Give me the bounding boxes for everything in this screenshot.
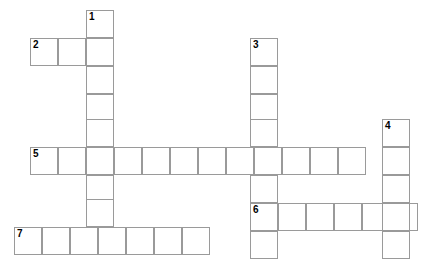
crossword-cell-numbered[interactable]: 1 (86, 10, 114, 38)
crossword-cell[interactable] (86, 94, 114, 122)
crossword-cell[interactable] (278, 203, 306, 231)
crossword-cell-number: 4 (385, 120, 391, 131)
crossword-cell[interactable] (254, 147, 282, 175)
crossword-cell[interactable] (86, 66, 114, 94)
crossword-cell[interactable] (382, 231, 410, 259)
crossword-cell-number: 6 (253, 204, 259, 215)
crossword-cell[interactable] (58, 147, 86, 175)
crossword-cell[interactable] (42, 227, 70, 255)
crossword-cell-numbered[interactable]: 5 (30, 147, 58, 175)
crossword-cell-number: 5 (33, 148, 39, 159)
crossword-cell[interactable] (114, 147, 142, 175)
crossword-cell[interactable] (334, 203, 362, 231)
crossword-cell[interactable] (310, 147, 338, 175)
crossword-cell[interactable] (250, 175, 278, 203)
crossword-cell-number: 2 (33, 39, 39, 50)
crossword-cell[interactable] (86, 147, 114, 175)
crossword-cell[interactable] (282, 147, 310, 175)
crossword-cell[interactable] (86, 38, 114, 66)
crossword-cell[interactable] (126, 227, 154, 255)
crossword-cell[interactable] (338, 147, 366, 175)
crossword-cell[interactable] (182, 227, 210, 255)
crossword-cell-numbered[interactable]: 6 (250, 203, 278, 231)
crossword-cell[interactable] (306, 203, 334, 231)
crossword-cell[interactable] (142, 147, 170, 175)
crossword-cell[interactable] (250, 66, 278, 94)
crossword-cell-number: 1 (89, 11, 95, 22)
crossword-cell[interactable] (70, 227, 98, 255)
crossword-cell-numbered[interactable]: 7 (14, 227, 42, 255)
crossword-cell[interactable] (382, 175, 410, 203)
crossword-cell[interactable] (382, 147, 410, 175)
crossword-cell-numbered[interactable]: 3 (250, 38, 278, 66)
crossword-cell[interactable] (198, 147, 226, 175)
crossword-cell-numbered[interactable]: 2 (30, 38, 58, 66)
crossword-cell[interactable] (58, 38, 86, 66)
crossword-cell[interactable] (250, 94, 278, 122)
crossword-cell-number: 7 (17, 228, 23, 239)
crossword-cell[interactable] (98, 227, 126, 255)
crossword-cell[interactable] (226, 147, 254, 175)
crossword-cell[interactable] (170, 147, 198, 175)
crossword-cell-numbered[interactable]: 4 (382, 119, 410, 147)
crossword-cell[interactable] (86, 119, 114, 147)
crossword-cell[interactable] (382, 203, 410, 231)
crossword-cell[interactable] (154, 227, 182, 255)
crossword-cell-number: 3 (253, 39, 259, 50)
crossword-cell[interactable] (86, 199, 114, 227)
crossword-cell[interactable] (250, 231, 278, 259)
crossword-cell[interactable] (250, 119, 278, 147)
crossword-puzzle-grid: 1234567 (0, 0, 446, 280)
